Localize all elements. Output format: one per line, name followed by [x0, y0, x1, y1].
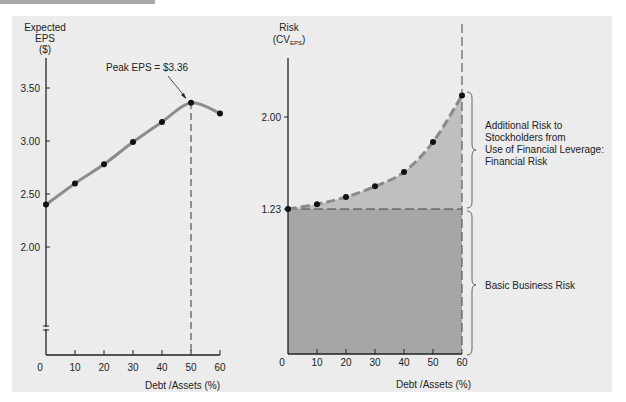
data-point: [430, 139, 436, 145]
right-chart: Risk (CVEPS) 2.001.23 0102030405060 Debt…: [262, 22, 604, 390]
x-tick-label: 30: [127, 362, 139, 373]
x-tick-label: 40: [156, 362, 168, 373]
data-point: [372, 183, 378, 189]
y-tick-label: 2.00: [262, 112, 282, 123]
left-y-label: Expected EPS ($): [24, 22, 66, 55]
peak-annotation: Peak EPS = $3.36: [106, 62, 188, 73]
data-point: [130, 139, 136, 145]
y-tick-label: 3.50: [21, 83, 41, 94]
left-x-ticks: 0102030405060: [37, 350, 226, 373]
x-tick-label: 60: [214, 362, 226, 373]
data-point: [188, 100, 194, 106]
svg-text:Stockholders from: Stockholders from: [485, 132, 566, 143]
left-ylabel-line3: ($): [39, 44, 51, 55]
x-tick-label: 50: [427, 357, 439, 368]
data-point: [101, 161, 107, 167]
chart-svg: Expected EPS ($) 3.503.002.502.00 010203…: [0, 0, 626, 402]
right-ylabel: Risk: [279, 22, 299, 33]
x-tick-label: 40: [398, 357, 410, 368]
arrowhead-icon: [181, 93, 186, 99]
eps-line: [46, 103, 220, 205]
business-risk-brace-icon: [467, 211, 476, 355]
x-tick-label: 50: [185, 362, 197, 373]
business-risk-area: [288, 209, 462, 354]
financial-risk-label: Additional Risk to Stockholders from Use…: [485, 120, 604, 167]
business-risk-label: Basic Business Risk: [485, 280, 576, 291]
left-chart: Expected EPS ($) 3.503.002.502.00 010203…: [21, 22, 226, 391]
data-point: [43, 202, 49, 208]
right-ylabel-sub: (CVEPS): [273, 34, 306, 46]
data-point: [314, 201, 320, 207]
svg-text:Use of Financial Leverage:: Use of Financial Leverage:: [485, 144, 604, 155]
svg-text:Financial Risk: Financial Risk: [485, 156, 548, 167]
x-tick-label: 0: [37, 362, 43, 373]
x-tick-label: 30: [369, 357, 381, 368]
left-ylabel-line1: Expected: [24, 22, 66, 33]
x-tick-label: 60: [456, 357, 468, 368]
data-point: [401, 169, 407, 175]
x-tick-label: 0: [279, 357, 285, 368]
svg-text:Additional Risk to: Additional Risk to: [485, 120, 563, 131]
eps-points: [43, 100, 223, 208]
data-point: [159, 119, 165, 125]
left-ylabel-line2: EPS: [35, 33, 55, 44]
data-point: [343, 194, 349, 200]
right-xlabel: Debt /Assets (%): [396, 379, 471, 390]
data-point: [217, 110, 223, 116]
y-tick-label: 2.00: [21, 242, 41, 253]
x-tick-label: 20: [98, 362, 110, 373]
right-y-ticks: 2.001.23: [262, 112, 288, 215]
x-tick-label: 10: [311, 357, 323, 368]
left-xlabel: Debt /Assets (%): [145, 380, 220, 391]
financial-risk-area: [288, 95, 462, 209]
y-tick-label: 2.50: [21, 189, 41, 200]
financial-risk-brace-icon: [467, 92, 476, 208]
x-tick-label: 20: [340, 357, 352, 368]
y-tick-label: 1.23: [262, 204, 282, 215]
y-tick-label: 3.00: [21, 136, 41, 147]
x-tick-label: 10: [69, 362, 81, 373]
data-point: [72, 180, 78, 186]
data-point: [459, 92, 465, 98]
